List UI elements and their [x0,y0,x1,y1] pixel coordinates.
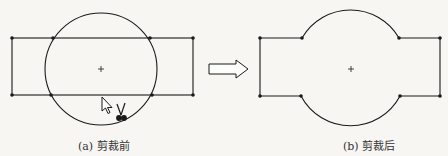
sketch-before-trim [10,13,195,125]
center-plus-icon [98,66,104,72]
sketch-after-trim [258,10,442,126]
right-arrow-icon [209,60,248,78]
caption-after-trim: (b) 剪裁后 [343,137,395,153]
arrow-cursor-icon [102,97,112,114]
center-plus-icon [348,66,354,72]
vertex-points [10,36,195,97]
trimmed-outline [260,10,440,126]
vertex-points [258,36,442,98]
caption-before-trim: (a) 剪裁前 [78,137,130,153]
rectangle-shape [12,38,193,95]
trim-diagram [0,0,448,156]
scissors-icon [117,103,127,120]
